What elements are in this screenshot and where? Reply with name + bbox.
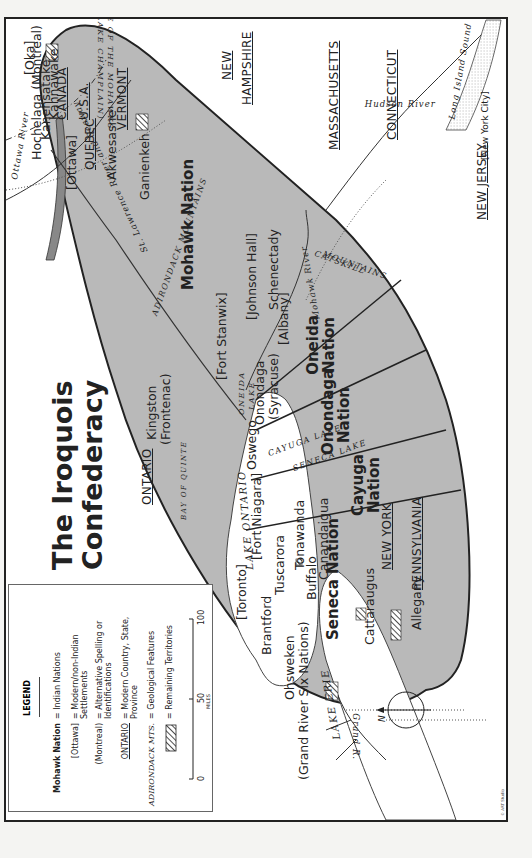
territory-akwesasne bbox=[136, 114, 148, 130]
label-canandaigua: Canandaigua bbox=[318, 498, 331, 580]
label-albany: [Albany] bbox=[278, 292, 291, 345]
region-new-hampshire-2: HAMPSHIRE bbox=[241, 31, 253, 105]
hatched-swatch bbox=[165, 723, 179, 811]
legend-box: LEGEND Mohawk Nation = Indian Nations [O… bbox=[8, 584, 213, 812]
label-tuscarora: Tuscarora bbox=[274, 535, 287, 595]
label-cattaraugus: Cattaraugus bbox=[364, 568, 377, 645]
label-ottawa: [Ottawa] bbox=[66, 135, 79, 190]
region-new-york: NEW YORK bbox=[381, 503, 393, 570]
map-frame: The Iroquois Confederacy LEGEND Mohawk N… bbox=[4, 17, 508, 822]
legend-rule bbox=[39, 677, 40, 717]
feature-oneida-lake-1: ONEIDA bbox=[238, 371, 246, 415]
label-syracuse: (Syracuse) bbox=[268, 353, 281, 420]
label-frontenac: (Frontenac) bbox=[160, 373, 173, 445]
map-title: The Iroquois Confederacy bbox=[48, 380, 108, 570]
credit: © ART Studio bbox=[500, 789, 505, 816]
nation-cayuga: Cayuga Nation bbox=[351, 450, 383, 520]
rotated-map-canvas: The Iroquois Confederacy LEGEND Mohawk N… bbox=[0, 0, 532, 858]
region-canada: CANADA bbox=[56, 67, 68, 120]
scale-bar bbox=[187, 601, 207, 781]
label-toronto: [Toronto] bbox=[236, 564, 249, 620]
feature-lake-champlain: (LAKE CHAMPLAIN) bbox=[96, 17, 104, 120]
nation-oneida: Oneida Nation bbox=[306, 315, 338, 375]
region-pennsylvania: PENNSYLVANIA bbox=[411, 497, 423, 590]
region-massachusetts: MASSACHUSETTS bbox=[328, 41, 340, 150]
legend-heading: LEGEND bbox=[23, 585, 32, 811]
region-new-hampshire-1: NEW bbox=[221, 51, 233, 80]
label-kanehsatake: Kanehsatake bbox=[40, 60, 53, 140]
feature-lake-of-the-mohawks: LAKE OF THE MOHAWKS bbox=[106, 17, 114, 130]
region-connecticut: CONNECTICUT bbox=[386, 50, 398, 140]
feature-grand-river: Grand R. bbox=[351, 713, 360, 760]
label-oka: [Oka] bbox=[24, 41, 37, 75]
label-fort-stanwix: [Fort Stanwix] bbox=[216, 292, 229, 380]
region-ontario: ONTARIO bbox=[141, 449, 153, 505]
label-ohsweken: Ohsweken bbox=[284, 635, 297, 700]
feature-bay-of-quinte: BAY OF QUINTE bbox=[181, 441, 188, 520]
region-new-jersey: NEW JERSEY bbox=[476, 143, 488, 220]
label-oswego: Oswego bbox=[246, 420, 259, 470]
label-grand-river-six-nations: (Grand River Six Nations) bbox=[298, 621, 311, 780]
label-kingston: Kingston bbox=[146, 385, 159, 440]
region-vermont: VERMONT bbox=[116, 68, 128, 130]
label-brantford: Brantford bbox=[261, 596, 274, 655]
label-johnson-hall: [Johnson Hall] bbox=[246, 233, 259, 320]
feature-oneida-lake-2: LAKE bbox=[248, 381, 256, 410]
compass-north-label: N bbox=[378, 715, 387, 722]
territory-allegany bbox=[391, 610, 401, 640]
label-ganienkeh: Ganienkeh bbox=[139, 133, 152, 200]
feature-hudson-river: Hudson River bbox=[365, 100, 436, 109]
